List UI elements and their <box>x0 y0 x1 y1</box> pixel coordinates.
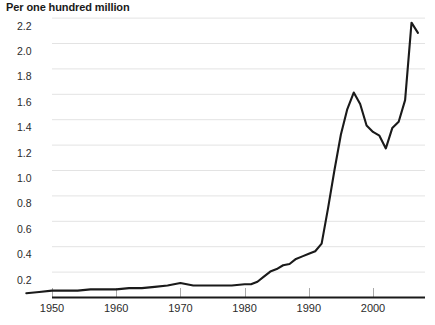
data-series-line <box>26 23 418 294</box>
gridlines-group <box>52 18 425 272</box>
x-tick-label: 1990 <box>297 302 321 314</box>
y-tick-label: 2.0 <box>17 45 32 57</box>
y-tick-label: 1.6 <box>17 96 32 108</box>
x-tick-label: 1970 <box>168 302 192 314</box>
y-tick-label: 0.6 <box>17 223 32 235</box>
y-tick-label: 1.8 <box>17 70 32 82</box>
y-tick-label: 2.2 <box>17 20 32 32</box>
y-tick-label: 1.2 <box>17 147 32 159</box>
x-tick-label: 1980 <box>232 302 256 314</box>
x-tick-label: 2000 <box>361 302 385 314</box>
plot-area <box>0 0 435 325</box>
y-tick-label: 0.4 <box>17 248 32 260</box>
y-tick-label: 0.2 <box>17 274 32 286</box>
y-tick-label: 0.8 <box>17 197 32 209</box>
x-tick-label: 1960 <box>104 302 128 314</box>
x-tick-label: 1950 <box>40 302 64 314</box>
chart-container: Per one hundred million 0.20.40.60.81.01… <box>0 0 435 325</box>
y-tick-label: 1.0 <box>17 172 32 184</box>
y-tick-label: 1.4 <box>17 121 32 133</box>
